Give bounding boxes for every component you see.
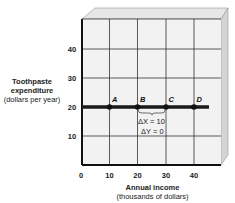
point-label-d: D bbox=[197, 95, 203, 104]
point-label-c: C bbox=[169, 95, 175, 104]
box-top-face bbox=[82, 8, 228, 19]
x-tick-10: 10 bbox=[105, 171, 113, 180]
x-tick-0: 0 bbox=[79, 171, 83, 180]
plot-area bbox=[82, 19, 221, 165]
y-axis-title: Toothpaste expenditure bbox=[0, 77, 64, 95]
point-a bbox=[107, 104, 113, 110]
x-tick-40: 40 bbox=[190, 171, 198, 180]
x-tick-30: 30 bbox=[162, 171, 170, 180]
x-tick-20: 20 bbox=[133, 171, 141, 180]
point-label-a: A bbox=[111, 95, 117, 104]
box-right-face bbox=[221, 8, 228, 165]
x-axis-label: Annual income (thousands of dollars) bbox=[100, 183, 205, 201]
x-axis-units: (thousands of dollars) bbox=[116, 192, 188, 201]
y-tick-10: 10 bbox=[68, 132, 76, 141]
point-b bbox=[135, 104, 141, 110]
y-axis-units: (dollars per year) bbox=[4, 95, 61, 104]
y-tick-40: 40 bbox=[68, 45, 76, 54]
point-c bbox=[163, 104, 169, 110]
y-tick-20: 20 bbox=[68, 103, 76, 112]
y-axis-label: Toothpaste expenditure (dollars per year… bbox=[0, 77, 64, 104]
x-axis-title: Annual income bbox=[100, 183, 205, 192]
y-tick-30: 30 bbox=[68, 74, 76, 83]
delta-x-annotation: ΔX = 10 bbox=[138, 117, 165, 126]
point-d bbox=[191, 104, 197, 110]
point-label-b: B bbox=[140, 95, 146, 104]
delta-y-annotation: ΔY = 0 bbox=[141, 127, 164, 136]
